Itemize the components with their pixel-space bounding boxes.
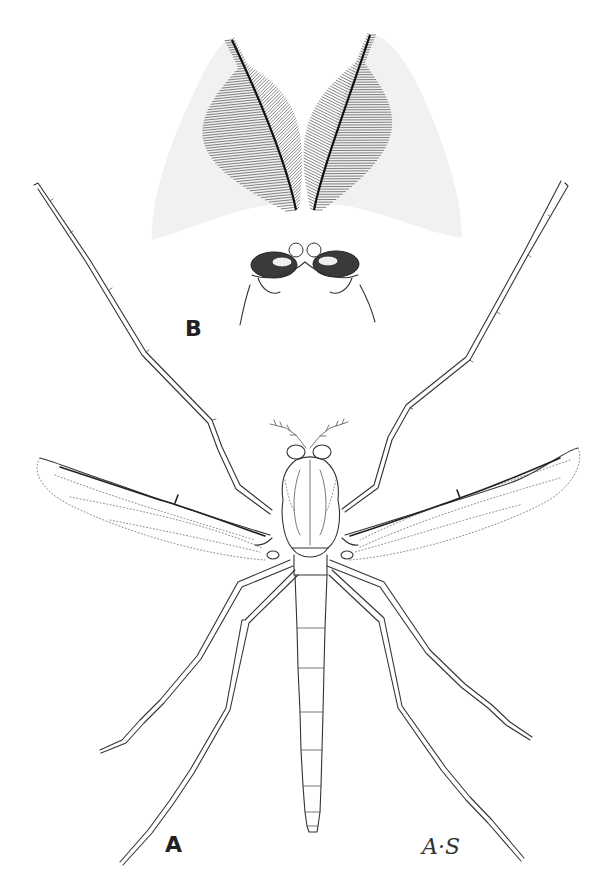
right-wing xyxy=(342,448,580,560)
artist-signature: A·S xyxy=(422,836,460,858)
illustration-plate: B A A·S xyxy=(0,0,611,892)
lower-legs xyxy=(100,560,532,865)
panel-a-body xyxy=(267,419,353,832)
panel-b-label: B xyxy=(185,318,202,340)
mosquito-drawing xyxy=(0,0,611,892)
panel-a-label: A xyxy=(165,834,182,856)
front-legs xyxy=(34,181,568,514)
panel-b-antennae xyxy=(152,34,462,325)
left-wing xyxy=(37,458,272,560)
